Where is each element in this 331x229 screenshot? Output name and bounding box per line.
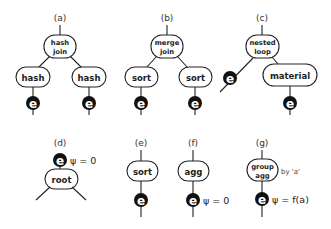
e-leaf-icon: e	[255, 192, 269, 207]
svg-text:root: root	[52, 175, 72, 185]
e-leaf-icon: e	[188, 96, 202, 111]
e-leaf-icon: e	[82, 96, 96, 111]
svg-text:hash: hash	[78, 73, 101, 83]
group-by-note: by 'a'	[281, 168, 300, 176]
material-node: material	[263, 64, 317, 86]
svg-text:loop: loop	[254, 48, 271, 56]
panel-label: (b)	[161, 13, 174, 23]
svg-text:e: e	[226, 72, 234, 86]
panel-d: (d) e ψ = 0 root	[36, 138, 96, 200]
svg-text:e: e	[258, 193, 266, 207]
svg-text:nested: nested	[249, 39, 275, 47]
panel-a: (a) hash join hash hash e e	[16, 13, 106, 115]
merge-join-node: merge join	[151, 35, 183, 58]
panel-g: (g) group agg by 'a' e ψ = f(a)	[247, 138, 309, 217]
panel-f: (f) agg e ψ = 0	[178, 138, 229, 217]
svg-text:e: e	[29, 97, 37, 111]
hash-join-node: hash join	[44, 35, 76, 58]
group-agg-node: group agg	[247, 159, 278, 181]
svg-text:hash: hash	[22, 73, 45, 83]
hash-node-left: hash	[16, 67, 50, 87]
panel-b: (b) merge join sort sort e e	[125, 13, 212, 115]
svg-text:e: e	[286, 97, 294, 111]
panel-label: (c)	[256, 13, 268, 23]
nested-loop-node: nested loop	[246, 35, 279, 58]
hash-node-right: hash	[72, 67, 106, 87]
svg-text:group: group	[251, 163, 274, 171]
panel-label: (e)	[135, 138, 148, 148]
svg-text:e: e	[191, 97, 199, 111]
psi-annotation: ψ = 0	[203, 195, 229, 206]
svg-text:e: e	[56, 154, 64, 168]
query-plan-diagram: (a) hash join hash hash e e (b)	[0, 0, 331, 229]
panel-e: (e) sort e	[127, 138, 158, 217]
root-node: root	[45, 169, 78, 189]
svg-text:merge: merge	[155, 39, 180, 47]
svg-text:e: e	[137, 194, 145, 208]
agg-node: agg	[178, 161, 209, 181]
panel-label: (a)	[54, 13, 67, 23]
svg-text:agg: agg	[255, 172, 269, 180]
svg-text:sort: sort	[133, 167, 152, 177]
e-leaf-icon: e	[134, 193, 148, 208]
e-leaf-icon: e	[223, 71, 237, 86]
svg-text:e: e	[85, 97, 93, 111]
svg-text:sort: sort	[186, 73, 205, 83]
svg-text:join: join	[159, 48, 174, 56]
e-leaf-icon: e	[186, 193, 200, 208]
panel-c: (c) nested loop e material e	[220, 13, 317, 115]
e-leaf-icon: e	[134, 96, 148, 111]
svg-text:e: e	[137, 97, 145, 111]
svg-text:e: e	[189, 194, 197, 208]
sort-node: sort	[127, 161, 158, 181]
svg-text:sort: sort	[132, 73, 151, 83]
svg-text:agg: agg	[185, 167, 203, 177]
svg-text:material: material	[270, 71, 310, 81]
sort-node-left: sort	[125, 67, 158, 87]
e-leaf-icon: e	[53, 153, 67, 168]
e-leaf-icon: e	[26, 96, 40, 111]
panel-label: (d)	[54, 138, 67, 148]
psi-annotation: ψ = 0	[70, 155, 96, 166]
svg-text:join: join	[52, 48, 67, 56]
psi-annotation: ψ = f(a)	[272, 194, 309, 205]
svg-text:hash: hash	[51, 39, 69, 47]
sort-node-right: sort	[179, 67, 212, 87]
e-leaf-icon: e	[283, 96, 297, 111]
panel-label: (g)	[256, 138, 269, 148]
panel-label: (f)	[188, 138, 198, 148]
